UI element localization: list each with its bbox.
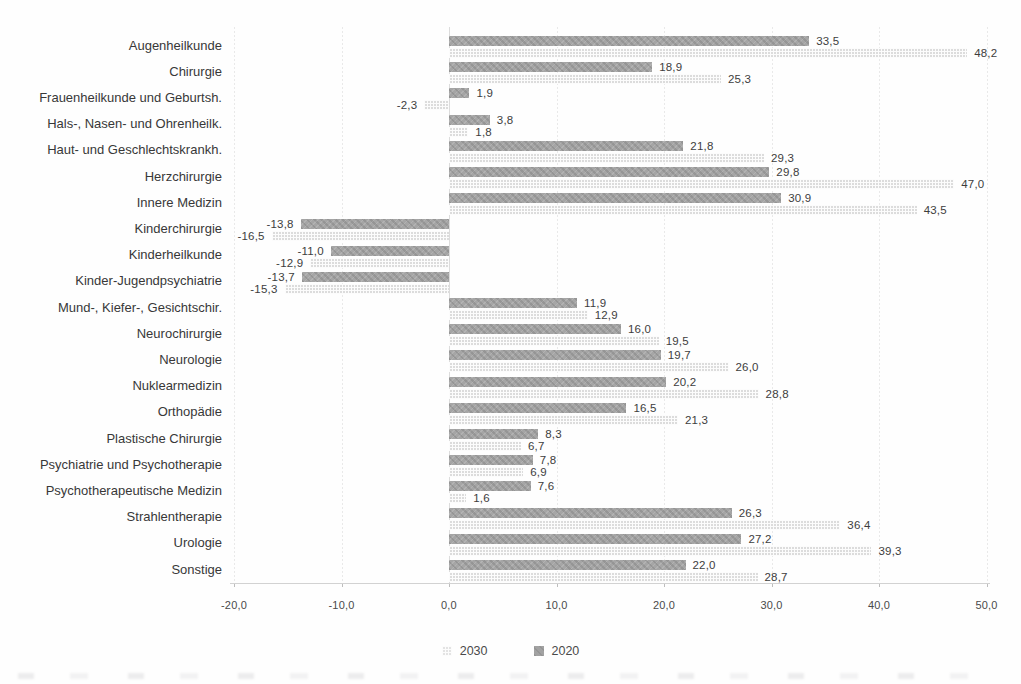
category-label: Neurochirurgie <box>137 325 222 340</box>
value-label: 6,9 <box>530 466 547 478</box>
value-label: 28,8 <box>766 388 789 400</box>
value-label: 6,7 <box>528 440 545 452</box>
bar-2020 <box>449 534 741 544</box>
gridline <box>879 27 880 583</box>
value-label: 26,0 <box>736 361 759 373</box>
bar-2030 <box>449 520 840 530</box>
category-label: Sonstige <box>171 561 222 576</box>
bar-2020 <box>449 508 732 518</box>
value-label: 19,5 <box>666 335 689 347</box>
value-label: 21,3 <box>685 414 708 426</box>
value-label: 1,6 <box>473 492 490 504</box>
category-label: Mund-, Kiefer-, Gesichtschir. <box>58 299 222 314</box>
legend-label-2030: 2030 <box>460 644 488 658</box>
value-label: 26,3 <box>739 507 762 519</box>
value-label: -16,5 <box>237 230 264 242</box>
value-label: -15,3 <box>250 283 277 295</box>
value-label: 22,0 <box>693 559 716 571</box>
bar-2030 <box>310 258 449 268</box>
value-label: -13,7 <box>268 271 295 283</box>
category-label: Kinder-Jugendpsychiatrie <box>75 273 222 288</box>
bar-2030 <box>449 572 758 582</box>
legend-item-2020: 2020 <box>534 644 580 658</box>
gridline <box>772 27 773 583</box>
bar-2020 <box>449 377 666 387</box>
legend-label-2020: 2020 <box>552 644 580 658</box>
bar-2030 <box>449 493 466 503</box>
category-label: Psychotherapeutische Medizin <box>46 482 222 497</box>
value-label: 20,2 <box>673 376 696 388</box>
value-label: 8,3 <box>545 428 562 440</box>
value-label: 48,2 <box>974 47 997 59</box>
value-label: 36,4 <box>847 519 870 531</box>
axis-tick-label: 10,0 <box>545 599 567 611</box>
bar-2030 <box>449 389 759 399</box>
bar-2030 <box>449 336 659 346</box>
bar-2020 <box>449 298 577 308</box>
gridline <box>234 27 235 583</box>
category-label: Kinderchirurgie <box>135 220 222 235</box>
value-label: 39,3 <box>878 545 901 557</box>
category-label: Innere Medizin <box>137 194 222 209</box>
axis-tick-label: 50,0 <box>975 599 997 611</box>
bar-2020 <box>449 167 769 177</box>
bar-2020 <box>331 246 449 256</box>
value-label: 19,7 <box>668 349 691 361</box>
category-label: Augenheilkunde <box>129 37 222 52</box>
axis-tick-label: 20,0 <box>653 599 675 611</box>
bar-2030 <box>449 546 871 556</box>
value-label: 28,7 <box>765 571 788 583</box>
value-label: 18,9 <box>659 61 682 73</box>
bar-2030 <box>449 441 521 451</box>
page-edge-artifact <box>18 673 1003 679</box>
scanned-chart-page: -20,0-10,00,010,020,030,040,050,0Augenhe… <box>0 0 1021 684</box>
bar-2020 <box>449 429 538 439</box>
bar-2030 <box>449 153 764 163</box>
value-label: -2,3 <box>397 99 418 111</box>
bar-2030 <box>449 179 954 189</box>
value-label: 11,9 <box>584 297 606 309</box>
value-label: -11,0 <box>297 245 323 257</box>
bar-2030 <box>449 48 967 58</box>
axis-tick-label: -10,0 <box>328 599 354 611</box>
value-label: 1,8 <box>475 126 492 138</box>
bar-2020 <box>449 455 533 465</box>
category-label: Kinderheilkunde <box>129 247 222 262</box>
gridline <box>987 27 988 583</box>
category-label: Chirurgie <box>169 63 222 78</box>
bar-2030 <box>449 127 468 137</box>
bar-2030 <box>449 362 729 372</box>
value-label: 47,0 <box>961 178 984 190</box>
bar-2030 <box>272 231 449 241</box>
bar-2020 <box>449 36 809 46</box>
category-label: Frauenheilkunde und Geburtsh. <box>39 89 222 104</box>
value-label: 29,8 <box>776 166 799 178</box>
value-label: 12,9 <box>595 309 618 321</box>
value-label: 3,8 <box>497 114 514 126</box>
chart-legend: 2030 2020 <box>0 644 1021 658</box>
value-label: 16,5 <box>633 402 656 414</box>
axis-tick-label: 30,0 <box>760 599 782 611</box>
axis-tick-label: 0,0 <box>441 599 457 611</box>
value-label: 30,9 <box>788 192 811 204</box>
value-label: -13,8 <box>266 218 293 230</box>
category-label: Orthopädie <box>158 404 222 419</box>
value-label: 7,6 <box>538 480 555 492</box>
category-label: Nuklearmedizin <box>132 378 222 393</box>
value-label: 25,3 <box>728 73 751 85</box>
value-label: 29,3 <box>771 152 794 164</box>
bar-2030 <box>449 415 678 425</box>
value-label: 43,5 <box>924 204 947 216</box>
bar-2020 <box>449 324 621 334</box>
value-label: 27,2 <box>748 533 771 545</box>
bar-2020 <box>449 481 531 491</box>
value-label: 16,0 <box>628 323 651 335</box>
category-label: Hals-, Nasen- und Ohrenheilk. <box>47 116 222 131</box>
x-axis-line <box>230 583 990 584</box>
value-label: 33,5 <box>816 35 839 47</box>
axis-tick-label: -20,0 <box>221 599 247 611</box>
category-label: Strahlentherapie <box>127 509 222 524</box>
bar-2020 <box>449 560 686 570</box>
legend-swatch-2030-icon <box>442 646 452 656</box>
category-label: Urologie <box>174 535 222 550</box>
